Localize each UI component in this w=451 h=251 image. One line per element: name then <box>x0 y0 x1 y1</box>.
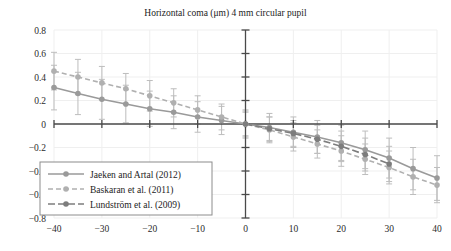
y-tick-label: 0.2 <box>34 96 46 106</box>
x-tick-labels: −40−30−20−10010203040 <box>47 224 442 234</box>
legend-item-label: Baskaran et al. (2011) <box>90 185 174 196</box>
legend-box: Jaeken and Artal (2012)Baskaran et al. (… <box>40 162 212 215</box>
x-tick-label: 40 <box>432 224 442 234</box>
x-tick-label: 30 <box>384 224 394 234</box>
y-tick-label: −0.2 <box>29 143 46 153</box>
legend-item-label: Jaeken and Artal (2012) <box>90 170 181 181</box>
y-tick-label: 0.8 <box>34 26 46 36</box>
x-tick-label: 20 <box>337 224 347 234</box>
horizontal-coma-line-chart: −40−30−20−10010203040 0.80.60.40.20−0.2−… <box>0 0 451 251</box>
x-tick-label: −30 <box>94 224 109 234</box>
page-title: Horizontal coma (μm) 4 mm circular pupil <box>144 8 307 19</box>
legend-item-label: Lundström et al. (2009) <box>90 200 180 211</box>
y-tick-label: 0.6 <box>34 49 46 59</box>
chart-figure: −40−30−20−10010203040 0.80.60.40.20−0.2−… <box>0 0 451 251</box>
x-tick-label: 10 <box>289 224 299 234</box>
x-tick-label: −20 <box>142 224 157 234</box>
x-tick-label: −40 <box>47 224 62 234</box>
y-tick-label: 0.4 <box>34 73 46 83</box>
x-tick-label: 0 <box>243 224 248 234</box>
x-tick-label: −10 <box>190 224 205 234</box>
y-tick-label: 0 <box>41 120 46 130</box>
